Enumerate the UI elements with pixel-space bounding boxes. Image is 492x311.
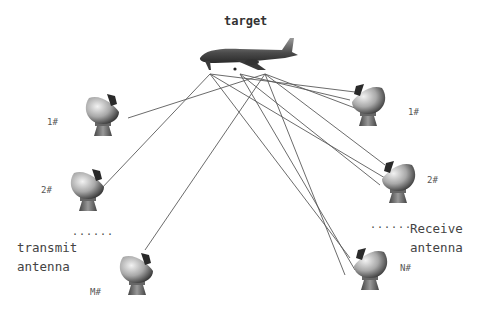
receive-antenna-1-label: 1# <box>408 107 419 117</box>
receive-ellipsis: ...... <box>370 219 412 230</box>
transmit-ellipsis: ...... <box>72 226 114 237</box>
airplane-icon <box>200 38 298 71</box>
receive-antenna-1-icon <box>352 84 385 126</box>
receive-group-label: Receive antenna <box>410 219 463 257</box>
transmit-group-label: transmit antenna <box>17 238 77 276</box>
transmit-label-line1: transmit <box>17 238 77 257</box>
receive-antenna-n-label: N# <box>400 263 411 273</box>
receive-antenna-2-icon <box>382 161 415 203</box>
target-label: target <box>224 14 267 28</box>
receive-antenna-2-label: 2# <box>427 175 438 185</box>
transmit-antenna-m-label: M# <box>90 287 101 297</box>
receive-antenna-n-icon <box>354 248 387 290</box>
receive-label-line1: Receive <box>410 219 463 238</box>
transmit-antenna-1-icon <box>86 94 119 136</box>
transmit-antenna-2-label: 2# <box>41 185 52 195</box>
receive-label-line2: antenna <box>410 238 463 257</box>
transmit-antenna-1-label: 1# <box>47 117 58 127</box>
mimo-radar-diagram: target 1# 2# M# ...... transmit antenna … <box>0 0 492 311</box>
propagation-lines <box>100 74 385 275</box>
transmit-antenna-2-icon <box>71 169 104 211</box>
transmit-label-line2: antenna <box>17 257 77 276</box>
transmit-antenna-m-icon <box>120 253 153 295</box>
